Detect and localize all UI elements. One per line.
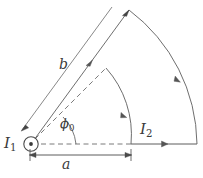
inner-arc-a xyxy=(106,68,131,144)
label-current-1-subscript: 1 xyxy=(10,142,16,153)
outer-ray-b-group xyxy=(31,10,129,144)
circle-dot-center xyxy=(29,142,33,146)
label-current-2-subscript: 2 xyxy=(146,128,152,139)
current-line-I2-group xyxy=(131,141,197,147)
arrowhead-icon-current-I2 xyxy=(162,141,169,147)
inner-arc-a-group xyxy=(106,68,131,144)
arrowhead-icon-outer-arc xyxy=(174,76,180,82)
ray-b-line xyxy=(31,10,129,144)
figure-canvas xyxy=(0,0,203,178)
arrowhead-icon-ray-b-tip xyxy=(123,10,130,16)
arrowhead-icon-inner-arc xyxy=(121,112,127,117)
dimension-line-a-group xyxy=(29,149,132,161)
circle-dot-icon-current-out-of-page xyxy=(24,137,38,151)
physics-figure: I1 I2 a b ϕ0 xyxy=(0,0,203,178)
label-radius-outer: b xyxy=(59,57,68,71)
label-radius-inner: a xyxy=(62,157,70,171)
label-current-1: I1 xyxy=(4,136,16,153)
label-angle-phi0: ϕ0 xyxy=(60,117,74,132)
arrowhead-icon-ray-extension-tip xyxy=(21,125,28,131)
label-angle-symbol: ϕ xyxy=(60,116,69,131)
label-current-2: I2 xyxy=(140,122,152,139)
label-angle-subscript: 0 xyxy=(69,123,74,133)
arrowhead-icon-ray-b-mid xyxy=(86,60,93,66)
